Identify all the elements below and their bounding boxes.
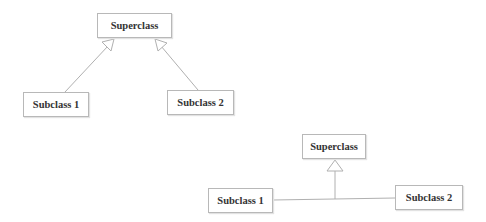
subclass-2-label: Subclass 2 <box>177 97 223 108</box>
generalization-arrow-a1 <box>65 39 114 92</box>
subclass-1-box-b[interactable]: Subclass 1 <box>208 188 273 213</box>
subclass-2-box-b[interactable]: Subclass 2 <box>395 185 463 210</box>
superclass-label: Superclass <box>310 141 358 152</box>
superclass-box-a[interactable]: Superclass <box>97 13 172 38</box>
subclass-2-label: Subclass 2 <box>406 192 452 203</box>
subclass-1-label: Subclass 1 <box>33 99 79 110</box>
subclass-2-box-a[interactable]: Subclass 2 <box>167 90 234 115</box>
superclass-box-b[interactable]: Superclass <box>302 134 366 159</box>
subclass-1-label: Subclass 1 <box>217 195 263 206</box>
subclass-1-box-a[interactable]: Subclass 1 <box>23 92 89 117</box>
generalization-arrow-a2 <box>155 39 198 90</box>
generalization-tree-b <box>273 160 395 200</box>
superclass-label: Superclass <box>111 20 159 31</box>
